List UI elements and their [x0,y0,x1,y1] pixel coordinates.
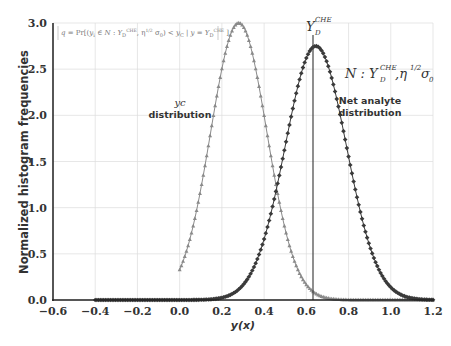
x-tick-label: 0.2 [212,305,231,318]
svg-text:q = Pr[(yi ∈ N : YDCHE, η1/2 σ: q = Pr[(yi ∈ N : YDCHE, η1/2 σ0) < yC | … [61,28,229,38]
svg-text:0: 0 [429,76,434,84]
x-tick-labels: −0.6−0.4−0.20.00.20.40.60.81.01.2 [39,305,443,318]
x-tick-label: −0.4 [81,305,110,318]
y-axis-label: Normalized histogram frequencies [17,50,31,274]
x-tick-label: 1.0 [381,305,400,318]
x-tick-label: −0.6 [39,305,68,318]
x-tick-label: −0.2 [123,305,151,318]
x-tick-label: 1.2 [423,305,442,318]
yd-che-label: Y D CHE [306,16,332,37]
svg-text:D: D [314,29,321,37]
x-tick-label: 0.4 [255,305,274,318]
yc-symbol: yc [173,97,186,108]
y-tick-label: 3.0 [28,17,47,30]
yc-distribution-label: distribution [149,109,212,120]
svg-text:CHE: CHE [315,16,332,24]
net-analyte-label-line2: distribution [339,107,402,118]
formula-annotation: q = Pr[(yi ∈ N : YDCHE, η1/2 σ0) < yC | … [58,26,229,40]
x-tick-label: 0.6 [297,305,316,318]
x-axis-label: y(x) [231,319,255,332]
net-analyte-label-line1: Net analyte [339,95,401,106]
grid-lines [53,23,433,300]
svg-text:D: D [379,76,386,84]
x-tick-label: 0.8 [339,305,358,318]
svg-text:N : Y: N : Y [344,66,379,81]
svg-text:,η: ,η [395,66,407,81]
normal-distribution-label: N : Y D CHE ,η 1/2 σ 0 [344,64,434,84]
chart: 0.00.51.01.52.02.53.0 −0.6−0.4−0.20.00.2… [0,0,451,346]
x-tick-label: 0.0 [170,305,189,318]
